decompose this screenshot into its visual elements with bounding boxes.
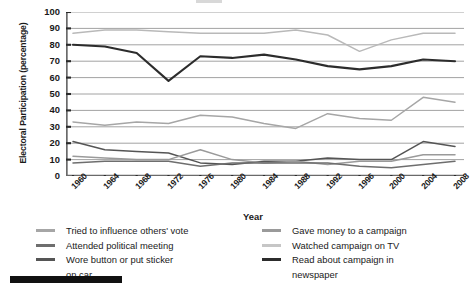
y-tick-label: 20 xyxy=(34,138,60,147)
series-line xyxy=(73,161,455,168)
legend-label: Gave money to a campaign xyxy=(292,225,407,236)
chart-legend: Tried to influence others' voteAttended … xyxy=(0,224,476,280)
y-tick-label: 60 xyxy=(34,73,60,82)
legend-item: Read about campaign in xyxy=(262,253,472,268)
y-tick-label: 100 xyxy=(34,7,60,16)
legend-label: Read about campaign in xyxy=(292,254,394,265)
series-line xyxy=(73,30,455,51)
legend-item: Watched campaign on TV xyxy=(262,239,472,254)
legend-label: Watched campaign on TV xyxy=(292,240,399,251)
y-tick-label: 30 xyxy=(34,122,60,131)
legend-item: Tried to influence others' vote xyxy=(36,224,261,239)
legend-label: Tried to influence others' vote xyxy=(66,225,188,236)
legend-swatch xyxy=(36,244,55,247)
y-tick-label: 70 xyxy=(34,56,60,65)
y-tick-label: 0 xyxy=(34,171,60,180)
legend-swatch xyxy=(262,229,281,232)
series-line xyxy=(73,97,455,128)
legend-label-continuation: newspaper xyxy=(262,268,472,281)
y-tick-label: 90 xyxy=(34,23,60,32)
x-axis-title: Year xyxy=(243,211,263,222)
legend-column-right: Gave money to a campaignWatched campaign… xyxy=(262,224,472,281)
y-tick-label: 40 xyxy=(34,105,60,114)
y-tick-label: 80 xyxy=(34,40,60,49)
legend-item: Gave money to a campaign xyxy=(262,224,472,239)
y-tick-label: 50 xyxy=(34,89,60,98)
line-chart-svg xyxy=(66,12,464,176)
legend-item: Attended political meeting xyxy=(36,239,261,254)
series-line xyxy=(73,45,455,81)
legend-label: Attended political meeting xyxy=(66,240,173,251)
plot-area xyxy=(66,12,464,176)
cropped-title-artifact xyxy=(196,0,222,3)
footer-black-bar xyxy=(10,276,122,283)
legend-swatch xyxy=(262,258,281,261)
legend-swatch xyxy=(262,244,281,247)
chart-figure: Electoral Participation (percentage) 100… xyxy=(0,0,476,290)
y-tick-label: 10 xyxy=(34,155,60,164)
legend-item: Wore button or put sticker xyxy=(36,253,261,268)
legend-swatch xyxy=(36,229,55,232)
legend-column-left: Tried to influence others' voteAttended … xyxy=(36,224,261,281)
legend-label: Wore button or put sticker xyxy=(66,254,173,265)
legend-swatch xyxy=(36,258,55,261)
y-axis-title: Electoral Participation (percentage) xyxy=(18,8,28,178)
